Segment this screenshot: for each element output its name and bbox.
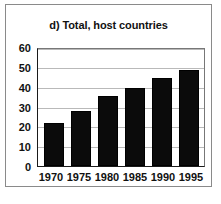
y-tick-label: 40 bbox=[19, 82, 31, 94]
plot-area bbox=[37, 48, 205, 167]
y-tick-label: 10 bbox=[19, 141, 31, 153]
y-tick-label: 30 bbox=[19, 102, 31, 114]
bar-series bbox=[38, 49, 204, 166]
chart-figure: d) Total, host countries 60 50 40 30 20 … bbox=[5, 4, 212, 187]
bar bbox=[152, 78, 172, 166]
y-tick-label: 60 bbox=[19, 42, 31, 54]
y-axis-tick-labels: 60 50 40 30 20 10 0 bbox=[6, 48, 34, 167]
x-tick-label: 1990 bbox=[150, 171, 176, 183]
bar bbox=[44, 123, 64, 166]
x-tick-label: 1980 bbox=[94, 171, 120, 183]
x-tick-label: 1975 bbox=[66, 171, 92, 183]
bar bbox=[71, 111, 91, 166]
chart-title: d) Total, host countries bbox=[6, 19, 211, 31]
y-tick-label: 20 bbox=[19, 121, 31, 133]
x-tick-label: 1985 bbox=[122, 171, 148, 183]
bar bbox=[98, 96, 118, 166]
y-tick-label: 0 bbox=[25, 161, 31, 173]
x-tick-label: 1970 bbox=[38, 171, 64, 183]
bar bbox=[179, 70, 199, 166]
bar bbox=[125, 88, 145, 166]
y-tick-label: 50 bbox=[19, 62, 31, 74]
x-axis-tick-labels: 1970 1975 1980 1985 1990 1995 bbox=[37, 171, 205, 183]
x-tick-label: 1995 bbox=[178, 171, 204, 183]
